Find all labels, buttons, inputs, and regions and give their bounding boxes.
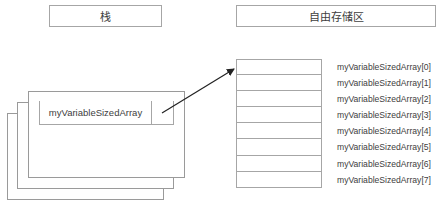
pointer-arrow bbox=[0, 0, 434, 207]
